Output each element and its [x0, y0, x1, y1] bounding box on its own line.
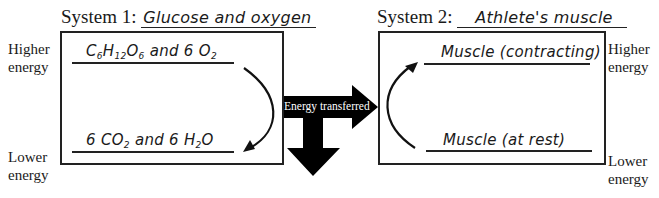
text: 6 CO [86, 131, 124, 149]
system2-lower-energy-label: Lower energy [608, 152, 649, 188]
system2-higher-level-line [424, 63, 590, 65]
label-line: energy [8, 166, 49, 184]
system2-label: System 2: [377, 6, 452, 27]
system1-higher-energy-label: Higher energy [8, 40, 50, 76]
system1-label: System 1: [61, 6, 136, 27]
system1-higher-state: C6H12O6 and 6 O2 [86, 42, 217, 61]
subscript: 12 [114, 51, 126, 61]
system2-lower-state: Muscle (at rest) [443, 131, 565, 149]
system1-lower-energy-label: Lower energy [8, 148, 49, 184]
label-line: Higher [608, 40, 650, 58]
system1-higher-level-line [72, 62, 234, 64]
system2-higher-state: Muscle (contracting) [441, 43, 601, 61]
system1-lower-state: 6 CO2 and 6 H2O [86, 131, 214, 150]
text: O [126, 42, 138, 60]
system2-value: Athlete's muscle [457, 9, 627, 28]
system2-lower-level-line [426, 150, 592, 152]
text: C [86, 42, 97, 60]
text: and 6 O [145, 42, 211, 60]
label-line: energy [608, 58, 650, 76]
label-line: Lower [608, 152, 649, 170]
subscript: 2 [211, 51, 217, 61]
system1-value: Glucose and oxygen [141, 9, 315, 28]
system1-lower-level-line [72, 151, 234, 153]
transfer-down-arrow-icon [287, 118, 340, 176]
label-line: Lower [8, 148, 49, 166]
label-line: energy [608, 170, 649, 188]
system2-title: System 2: Athlete's muscle [377, 6, 627, 28]
text: H [103, 42, 115, 60]
energy-transferred-label: Energy transferred [284, 100, 370, 112]
text: O [202, 131, 214, 149]
label-line: Higher [8, 40, 50, 58]
system1-title: System 1: Glucose and oxygen [61, 6, 316, 28]
system2-higher-energy-label: Higher energy [608, 40, 650, 76]
text: and 6 H [130, 131, 196, 149]
label-line: energy [8, 58, 50, 76]
